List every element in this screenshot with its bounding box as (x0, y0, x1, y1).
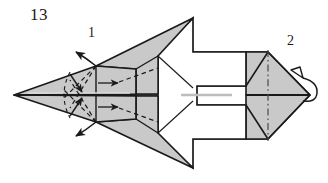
step-number-label: 13 (30, 6, 48, 23)
curved-arrow-down-left-icon (76, 122, 96, 136)
part-label-1: 1 (88, 26, 95, 40)
curved-arrow-up-left-icon (76, 52, 96, 66)
paper-shape-group (14, 18, 310, 168)
part-label-2: 2 (287, 34, 294, 48)
origami-diagram-figure: 13 1 2 (0, 0, 328, 183)
origami-diagram-canvas (0, 0, 328, 183)
